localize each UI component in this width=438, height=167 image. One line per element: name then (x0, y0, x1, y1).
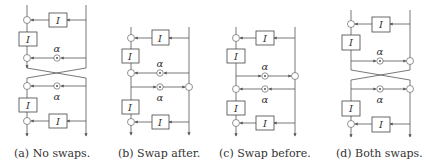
panel-d-both-swaps (342, 10, 414, 137)
sum-node (24, 17, 31, 24)
alpha-label: α (157, 58, 164, 69)
four-panel-diagram: I I I I I I I I I I I I I I I I α α α α … (0, 0, 438, 167)
alpha-label: α (54, 43, 61, 54)
box-labels: I I I I I I I I I I I I I I I I (25, 15, 384, 130)
alpha-label: α (54, 91, 61, 102)
alpha-label: α (377, 46, 384, 57)
caption-c: (c) Swap before. (219, 147, 311, 160)
caption-b: (b) Swap after. (118, 147, 200, 160)
panel-a-no-swaps (19, 5, 86, 136)
alpha-label: α (157, 92, 164, 103)
caption-a: (a) No swaps. (14, 147, 90, 160)
alpha-label: α (262, 94, 269, 105)
alpha-labels: α α α α α α α α (54, 43, 384, 105)
alpha-label: α (377, 94, 384, 105)
caption-d: (d) Both swaps. (336, 147, 423, 160)
alpha-label: α (262, 61, 269, 72)
